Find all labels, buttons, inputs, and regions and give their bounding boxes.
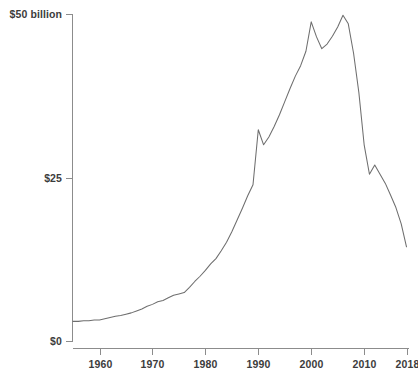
x-tick-label: 1960 <box>89 358 113 370</box>
x-tick-label: 1970 <box>141 358 165 370</box>
data-series-group <box>73 15 406 321</box>
x-axis-ticks <box>101 349 408 356</box>
series-line <box>73 15 406 321</box>
y-axis-tick-labels: $0$25$50 billion <box>10 8 63 347</box>
y-tick-label: $0 <box>50 335 62 347</box>
x-tick-label: 1980 <box>194 358 218 370</box>
x-tick-label: 1990 <box>247 358 271 370</box>
x-axis-tick-labels: 1960197019801990200020102018 <box>89 358 418 370</box>
y-tick-label: $50 billion <box>10 8 62 20</box>
line-chart: $0$25$50 billion 19601970198019902000201… <box>0 0 418 377</box>
y-axis-ticks <box>66 15 73 342</box>
y-tick-label: $25 <box>44 172 62 184</box>
x-tick-label: 2010 <box>353 358 377 370</box>
x-tick-label: 2000 <box>300 358 324 370</box>
x-tick-label: 2018 <box>396 358 418 370</box>
chart-plot-area: $0$25$50 billion 19601970198019902000201… <box>0 0 418 377</box>
